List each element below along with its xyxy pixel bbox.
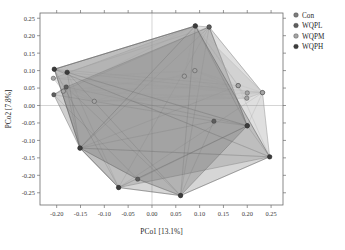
pcoa-figure: -0.20-0.15-0.10-0.050.000.050.100.150.20… [0, 0, 345, 250]
y-tick-label: -0.25 [22, 189, 35, 196]
legend-label-con: Con [302, 12, 314, 20]
y-tick-label: -0.05 [22, 119, 35, 126]
x-tick-label: -0.15 [74, 210, 87, 217]
data-point-wqpl[interactable] [52, 92, 56, 96]
data-point-wqpm[interactable] [182, 74, 186, 78]
data-point-wqpm[interactable] [51, 76, 55, 80]
y-axis-title: PCo2 [7.8%] [4, 90, 13, 129]
x-tick-label: -0.05 [121, 210, 134, 217]
y-tick-label: -0.15 [22, 154, 35, 161]
data-point-wqpm[interactable] [245, 91, 249, 95]
x-tick-label: 0.10 [194, 210, 205, 217]
data-point-wqph[interactable] [178, 193, 182, 197]
x-axis-title: PCo1 [13.1%] [140, 227, 182, 236]
hull-wqph [54, 26, 269, 196]
y-tick-label: 0.05 [24, 84, 35, 91]
data-point-wqph[interactable] [245, 124, 249, 128]
data-point-wqph[interactable] [116, 185, 120, 189]
data-point-wqph[interactable] [267, 155, 271, 159]
data-point-wqph[interactable] [65, 70, 69, 74]
x-tick-label: -0.10 [98, 210, 111, 217]
data-point-wqpm[interactable] [92, 99, 96, 103]
legend-label-wqpl: WQPL [302, 22, 322, 30]
x-tick-label: -0.20 [50, 210, 63, 217]
y-tick-label: 0.20 [24, 32, 35, 39]
data-point-wqpm[interactable] [61, 89, 65, 93]
x-tick-label: 0.05 [170, 210, 181, 217]
legend-label-wqph: WQPH [302, 43, 323, 51]
data-point-wqpl[interactable] [207, 25, 211, 29]
data-point-wqpl[interactable] [135, 177, 139, 181]
x-tick-label: 0.15 [218, 210, 229, 217]
y-tick-label: -0.20 [22, 172, 35, 179]
y-tick-label: 0.15 [24, 50, 35, 57]
pcoa-scatter-svg: -0.20-0.15-0.10-0.050.000.050.100.150.20… [0, 0, 345, 250]
x-tick-label: 0.00 [146, 210, 157, 217]
legend-marker-wqpm[interactable] [294, 34, 299, 39]
data-point-wqpm[interactable] [260, 90, 264, 94]
legend-marker-wqph[interactable] [294, 44, 299, 49]
data-point-wqpm[interactable] [245, 96, 249, 100]
y-tick-label: 0.25 [24, 15, 35, 22]
x-tick-label: 0.25 [265, 210, 276, 217]
y-tick-label: 0.00 [24, 102, 35, 109]
legend-label-wqpm: WQPM [302, 33, 325, 41]
data-point-wqph[interactable] [78, 146, 82, 150]
x-tick-label: 0.20 [242, 210, 253, 217]
y-tick-label: 0.10 [24, 67, 35, 74]
data-point-wqpl[interactable] [64, 85, 68, 89]
y-tick-label: -0.10 [22, 137, 35, 144]
data-point-wqpm[interactable] [236, 83, 240, 87]
data-point-wqph[interactable] [52, 67, 56, 71]
data-point-wqpm[interactable] [193, 68, 197, 72]
data-point-wqpl[interactable] [212, 119, 216, 123]
legend-marker-con[interactable] [294, 13, 299, 18]
legend-marker-wqpl[interactable] [294, 23, 299, 28]
data-point-wqph[interactable] [193, 24, 197, 28]
